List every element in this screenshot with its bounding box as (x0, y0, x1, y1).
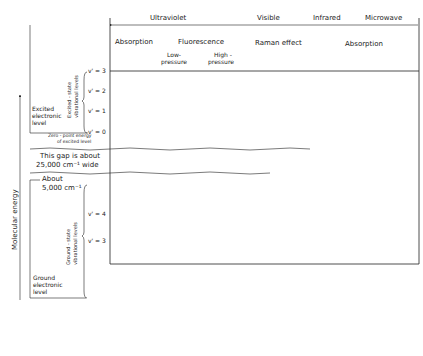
level-gr-3: v' = 3 (88, 237, 106, 244)
svg-text:of excited level: of excited level (57, 139, 91, 144)
svg-text:Excited: Excited (32, 105, 54, 112)
svg-text:25,000 cm⁻¹ wide: 25,000 cm⁻¹ wide (36, 161, 99, 169)
svg-text:5,000 cm⁻¹: 5,000 cm⁻¹ (42, 184, 82, 192)
label-absorption-ir: Absorption (345, 40, 383, 48)
svg-text:Zero - point energy: Zero - point energy (48, 133, 92, 138)
label-low-pressure-1: Low- (167, 51, 181, 58)
frame (110, 18, 419, 264)
y-axis: Molecular energy (11, 95, 20, 300)
svg-text:level: level (32, 119, 47, 126)
level-ex-2: v' = 2 (88, 87, 106, 94)
svg-text:About: About (42, 175, 63, 183)
spectrum-regions: Ultraviolet Visible Infrared Microwave (112, 14, 418, 25)
excited-level-block: Excited electronic level Excited - state… (30, 25, 106, 144)
label-raman-effect: Raman effect (255, 39, 302, 47)
svg-text:Ground: Ground (33, 274, 55, 281)
gap-annotation: This gap is about 25,000 cm⁻¹ wide About… (30, 148, 310, 192)
svg-text:electronic: electronic (32, 112, 61, 119)
svg-text:level: level (33, 288, 48, 295)
svg-text:Excited - state: Excited - state (66, 82, 72, 118)
region-ultraviolet: Ultraviolet (150, 14, 187, 22)
level-gr-4: v' = 4 (88, 210, 106, 217)
svg-text:vibrational levels: vibrational levels (72, 222, 78, 265)
svg-text:vibrational levels: vibrational levels (73, 75, 79, 118)
ground-level-block: Ground electronic level Ground - state v… (30, 180, 106, 298)
svg-text:Ground - state: Ground - state (65, 229, 71, 265)
label-fluorescence: Fluorescence (178, 38, 224, 46)
molecular-energy-diagram: Ultraviolet Visible Infrared Microwave A… (0, 0, 423, 356)
level-ex-3: v' = 3 (88, 67, 106, 74)
label-low-pressure-2: pressure (161, 58, 187, 66)
y-axis-label: Molecular energy (11, 189, 19, 250)
region-visible: Visible (257, 14, 280, 22)
svg-text:electronic: electronic (33, 281, 62, 288)
region-microwave: Microwave (365, 14, 402, 22)
process-headers: Absorption Fluorescence Raman effect Abs… (115, 38, 383, 66)
region-infrared: Infrared (313, 14, 341, 22)
label-absorption-uv: Absorption (115, 38, 153, 46)
level-ex-1: v' = 1 (88, 107, 106, 114)
svg-text:This gap is about: This gap is about (39, 152, 100, 160)
label-high-pressure-2: pressure (208, 58, 234, 66)
